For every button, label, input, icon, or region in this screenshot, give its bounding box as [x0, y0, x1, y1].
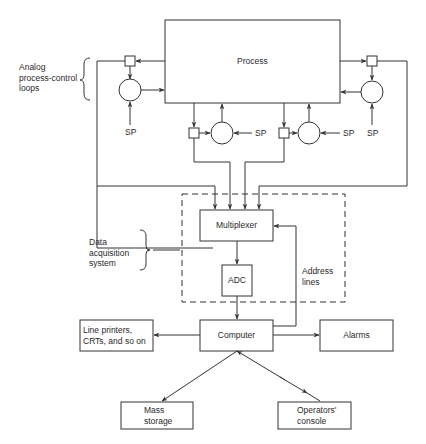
operators-console-label: Operators' console: [297, 405, 336, 426]
data-acquisition-brace: [140, 230, 150, 270]
operators-console-line-2: console: [297, 416, 336, 427]
setpoint-inner-left: SP: [255, 128, 266, 139]
inner-right-loop-controller: [298, 122, 320, 144]
address-lines-line-1: Address: [302, 266, 333, 277]
alarms-label: Alarms: [320, 330, 393, 341]
computer-label: Computer: [200, 330, 273, 341]
data-acquisition-line-2: acquisition: [89, 248, 129, 259]
process-label: Process: [237, 56, 268, 67]
analog-loops-line-3: loops: [19, 83, 77, 94]
left-loop-sensor: [125, 56, 135, 66]
left-loop-controller: [119, 79, 141, 101]
inner-left-loop-controller: [211, 122, 233, 144]
mass-storage-line-2: storage: [144, 416, 172, 427]
right-loop-controller: [361, 81, 383, 103]
right-loop-sensor: [367, 56, 377, 66]
operators-console-line-1: Operators': [297, 405, 336, 416]
line-printers-line-2: CRTs, and so on: [83, 336, 146, 347]
adc-label: ADC: [222, 275, 252, 286]
address-lines-label: Address lines: [302, 266, 333, 287]
analog-loops-brace: [80, 58, 90, 100]
inner-left-loop-sensor: [189, 128, 199, 138]
analog-loops-line-2: process-control: [19, 73, 77, 84]
line-printers-line-1: Line printers,: [83, 325, 146, 336]
line-printers-label: Line printers, CRTs, and so on: [83, 325, 146, 346]
data-acquisition-label: Data acquisition system: [89, 237, 129, 269]
inner-right-loop-sensor: [279, 128, 289, 138]
data-acquisition-line-3: system: [89, 258, 129, 269]
setpoint-right-outer: SP: [367, 128, 378, 139]
setpoint-inner-right: SP: [343, 128, 354, 139]
mass-storage-line-1: Mass: [144, 405, 172, 416]
multiplexer-label: Multiplexer: [200, 220, 273, 231]
mass-storage-label: Mass storage: [144, 405, 172, 426]
address-lines-line-2: lines: [302, 277, 333, 288]
data-acquisition-line-1: Data: [89, 237, 129, 248]
analog-loops-label: Analog process-control loops: [19, 62, 77, 94]
setpoint-left-outer: SP: [125, 127, 136, 138]
analog-loops-line-1: Analog: [19, 62, 77, 73]
